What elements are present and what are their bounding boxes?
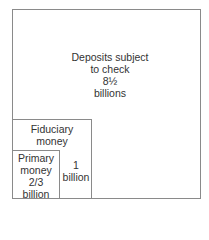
fiduciary-amount-line: 1: [60, 159, 92, 171]
deposits-label-line: Deposits subject: [60, 51, 160, 63]
primary-label-line: Primary: [12, 152, 60, 164]
fiduciary-label: Fiduciary money: [12, 123, 92, 147]
deposits-label-line: billions: [60, 87, 160, 99]
fiduciary-amount-line: billion: [60, 171, 92, 183]
primary-label-line: billion: [12, 188, 60, 200]
deposits-label-line: to check: [60, 63, 160, 75]
primary-label-line: 2/3: [12, 176, 60, 188]
fiduciary-amount-label: 1 billion: [60, 159, 92, 183]
fiduciary-label-line: Fiduciary: [12, 123, 92, 135]
fiduciary-label-line: money: [12, 135, 92, 147]
deposits-label-line: 8½: [60, 75, 160, 87]
primary-label-line: money: [12, 164, 60, 176]
deposits-label: Deposits subject to check 8½ billions: [60, 51, 160, 99]
primary-label: Primary money 2/3 billion: [12, 152, 60, 200]
